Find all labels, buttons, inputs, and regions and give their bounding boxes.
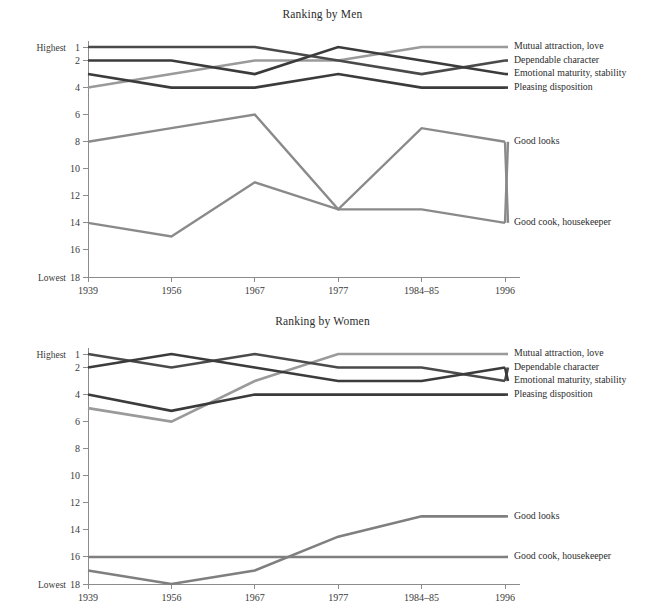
y-tick-label: 8 <box>75 443 80 454</box>
y-tick-label: 10 <box>70 470 80 481</box>
x-tick-label: 1996 <box>495 592 515 603</box>
y-axis-men: 124681012141618HighestLowest <box>36 41 88 283</box>
series-label: Pleasing disposition <box>514 81 593 92</box>
y-tick-label: 12 <box>70 497 80 508</box>
series-group-women <box>88 354 508 584</box>
x-tick-label: 1984–85 <box>404 285 439 296</box>
x-tick-label: 1939 <box>78 592 98 603</box>
plot-area-men: 124681012141618HighestLowest 19391956196… <box>0 0 645 307</box>
y-tick-label: 2 <box>75 55 80 66</box>
y-tick-label: 4 <box>75 82 80 93</box>
plot-area-women: 124681012141618HighestLowest 19391956196… <box>0 307 645 613</box>
y-tick-label: 18 <box>70 272 80 283</box>
x-tick-label: 1967 <box>245 592 265 603</box>
series-label: Mutual attraction, love <box>514 40 604 51</box>
y-tick-label: 18 <box>70 579 80 590</box>
y-tick-label: 16 <box>70 244 80 255</box>
x-tick-label: 1956 <box>161 285 181 296</box>
y-tick-label: 6 <box>75 109 80 120</box>
y-tick-label: 2 <box>75 362 80 373</box>
series-label: Good looks <box>514 135 560 146</box>
series-label: Good looks <box>514 510 560 521</box>
y-tick-label: 4 <box>75 389 80 400</box>
series-label: Emotional maturity, stability <box>514 374 626 385</box>
series-line <box>88 182 505 236</box>
x-tick-label: 1977 <box>328 592 348 603</box>
series-label: Dependable character <box>514 54 600 65</box>
y-tick-label: 10 <box>70 163 80 174</box>
y-axis-lowest-caption: Lowest <box>38 580 66 590</box>
y-tick-label: 6 <box>75 416 80 427</box>
x-tick-label: 1956 <box>161 592 181 603</box>
series-group-men <box>88 47 508 236</box>
chart-svg-women: 124681012141618HighestLowest 19391956196… <box>0 307 645 613</box>
chart-panel-women: Ranking by Women 124681012141618HighestL… <box>0 307 645 613</box>
y-tick-label: 14 <box>70 217 80 228</box>
series-labels-men: Mutual attraction, loveDependable charac… <box>514 40 626 227</box>
chart-panel-men: Ranking by Men 124681012141618HighestLow… <box>0 0 645 307</box>
series-label: Emotional maturity, stability <box>514 67 626 78</box>
y-axis-women: 124681012141618HighestLowest <box>36 348 88 590</box>
series-line <box>88 395 505 411</box>
y-tick-label: 8 <box>75 136 80 147</box>
y-tick-label: 14 <box>70 524 80 535</box>
y-tick-label: 12 <box>70 190 80 201</box>
series-label: Good cook, housekeeper <box>514 550 612 561</box>
y-axis-highest-caption: Highest <box>36 350 66 360</box>
series-label: Pleasing disposition <box>514 388 593 399</box>
series-label: Dependable character <box>514 361 600 372</box>
y-axis-highest-caption: Highest <box>36 43 66 53</box>
chart-svg-men: 124681012141618HighestLowest 19391956196… <box>0 0 645 307</box>
x-tick-label: 1939 <box>78 285 98 296</box>
y-tick-label: 1 <box>75 42 80 53</box>
series-labels-women: Mutual attraction, loveDependable charac… <box>514 347 626 561</box>
x-tick-label: 1977 <box>328 285 348 296</box>
series-label: Mutual attraction, love <box>514 347 604 358</box>
y-tick-label: 1 <box>75 349 80 360</box>
series-label: Good cook, housekeeper <box>514 216 612 227</box>
series-line <box>88 516 505 584</box>
x-axis-women: 19391956196719771984–851996 <box>78 584 520 603</box>
figure-page: Ranking by Men 124681012141618HighestLow… <box>0 0 645 613</box>
y-axis-lowest-caption: Lowest <box>38 273 66 283</box>
series-line <box>88 74 505 88</box>
x-tick-label: 1967 <box>245 285 265 296</box>
x-tick-label: 1996 <box>495 285 515 296</box>
y-tick-label: 16 <box>70 551 80 562</box>
x-axis-men: 19391956196719771984–851996 <box>78 277 520 296</box>
x-tick-label: 1984–85 <box>404 592 439 603</box>
